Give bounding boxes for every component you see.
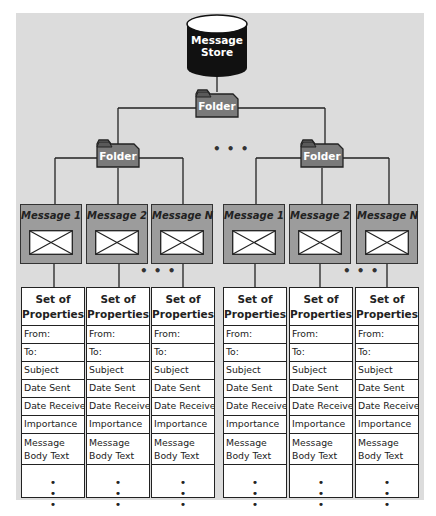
property-set: Set of Properties From: To: Subject Date… [223, 287, 287, 498]
property-row-from: From: [224, 326, 286, 344]
property-continuation: • • • [224, 465, 286, 516]
property-row-date-received: Date Received [290, 398, 352, 416]
property-row-date-received: Date Received [87, 398, 149, 416]
message-title: Message N [357, 210, 417, 221]
property-row-subject: Subject [224, 362, 286, 380]
property-row-subject: Subject [87, 362, 149, 380]
top-folder-label: Folder [195, 100, 239, 112]
property-continuation: • • • [87, 465, 149, 516]
message-box: Message 2 [86, 204, 148, 264]
property-row-subject: Subject [356, 362, 418, 380]
property-row-importance: Importance [290, 416, 352, 434]
property-row-body: Message Body Text [87, 434, 149, 465]
property-set-header: Set of Properties [152, 288, 214, 326]
message-ellipsis: • • • [343, 264, 379, 278]
property-row-from: From: [356, 326, 418, 344]
property-continuation: • • • [152, 465, 214, 516]
property-row-date-received: Date Received [152, 398, 214, 416]
property-row-date-sent: Date Sent [152, 380, 214, 398]
property-row-date-received: Date Received [22, 398, 84, 416]
property-row-date-received: Date Received [224, 398, 286, 416]
property-continuation: • • • [22, 465, 84, 516]
property-set-header: Set of Properties [87, 288, 149, 326]
property-set: Set of Properties From: To: Subject Date… [86, 287, 150, 498]
property-row-importance: Importance [152, 416, 214, 434]
property-row-to: To: [356, 344, 418, 362]
property-row-to: To: [224, 344, 286, 362]
property-row-subject: Subject [290, 362, 352, 380]
envelope-icon [365, 230, 409, 255]
property-set: Set of Properties From: To: Subject Date… [151, 287, 215, 498]
property-set: Set of Properties From: To: Subject Date… [289, 287, 353, 498]
property-set: Set of Properties From: To: Subject Date… [21, 287, 85, 498]
property-row-to: To: [22, 344, 84, 362]
message-title: Message N [152, 210, 212, 221]
property-row-body: Message Body Text [290, 434, 352, 465]
message-title: Message 1 [224, 210, 284, 221]
message-box: Message 1 [223, 204, 285, 264]
property-row-date-sent: Date Sent [22, 380, 84, 398]
property-row-from: From: [290, 326, 352, 344]
property-row-importance: Importance [22, 416, 84, 434]
message-box: Message 2 [289, 204, 351, 264]
property-row-importance: Importance [356, 416, 418, 434]
folder-ellipsis: • • • [213, 142, 249, 156]
property-row-subject: Subject [22, 362, 84, 380]
property-row-to: To: [87, 344, 149, 362]
message-title: Message 1 [21, 210, 81, 221]
property-row-body: Message Body Text [356, 434, 418, 465]
property-row-importance: Importance [87, 416, 149, 434]
message-box: Message N [356, 204, 418, 264]
property-row-to: To: [152, 344, 214, 362]
right-folder-label: Folder [300, 150, 344, 162]
message-box: Message 1 [20, 204, 82, 264]
property-row-date-received: Date Received [356, 398, 418, 416]
property-row-to: To: [290, 344, 352, 362]
message-title: Message 2 [87, 210, 147, 221]
property-row-date-sent: Date Sent [290, 380, 352, 398]
envelope-icon [298, 230, 342, 255]
message-box: Message N [151, 204, 213, 264]
envelope-icon [95, 230, 139, 255]
property-row-importance: Importance [224, 416, 286, 434]
property-row-from: From: [87, 326, 149, 344]
envelope-icon [160, 230, 204, 255]
property-row-date-sent: Date Sent [87, 380, 149, 398]
property-row-body: Message Body Text [22, 434, 84, 465]
property-set-header: Set of Properties [356, 288, 418, 326]
message-title: Message 2 [290, 210, 350, 221]
message-ellipsis: • • • [140, 264, 176, 278]
property-set-header: Set of Properties [22, 288, 84, 326]
property-row-subject: Subject [152, 362, 214, 380]
property-row-date-sent: Date Sent [356, 380, 418, 398]
envelope-icon [232, 230, 276, 255]
property-continuation: • • • [290, 465, 352, 516]
property-continuation: • • • [356, 465, 418, 516]
property-row-body: Message Body Text [152, 434, 214, 465]
property-row-body: Message Body Text [224, 434, 286, 465]
property-row-from: From: [152, 326, 214, 344]
property-row-from: From: [22, 326, 84, 344]
property-set-header: Set of Properties [224, 288, 286, 326]
property-row-date-sent: Date Sent [224, 380, 286, 398]
property-set-header: Set of Properties [290, 288, 352, 326]
left-folder-label: Folder [96, 150, 140, 162]
property-set: Set of Properties From: To: Subject Date… [355, 287, 419, 498]
envelope-icon [29, 230, 73, 255]
message-store-label: Message Store [186, 34, 248, 58]
